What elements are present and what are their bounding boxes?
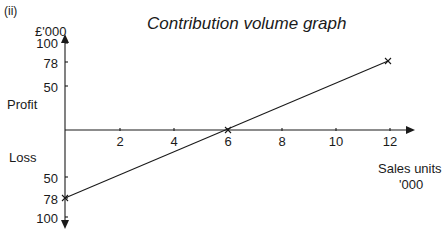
x-marker-profit — [385, 58, 391, 64]
chart-canvas — [0, 0, 445, 232]
y-axis-down-arrow — [61, 220, 69, 229]
x-axis-right-arrow — [406, 126, 415, 134]
y-axis-up-arrow — [61, 34, 69, 43]
